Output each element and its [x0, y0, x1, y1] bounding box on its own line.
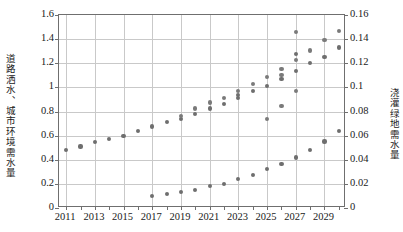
y-axis-left-tick — [55, 112, 59, 113]
y-axis-right-tick-label: 0 — [350, 202, 390, 213]
data-point — [150, 194, 154, 198]
data-point — [337, 29, 341, 33]
data-point — [294, 30, 298, 34]
x-axis-tick — [296, 206, 297, 210]
x-axis-tick — [310, 206, 311, 210]
x-axis-tick — [81, 206, 82, 210]
data-point — [251, 82, 255, 86]
x-axis-tick — [181, 206, 182, 210]
data-point — [337, 45, 341, 49]
y-axis-left-tick — [55, 184, 59, 185]
data-point — [265, 117, 269, 121]
data-point — [322, 139, 326, 143]
y-axis-right-tick-label: 0.1 — [350, 81, 390, 92]
data-point — [179, 114, 183, 118]
data-point — [308, 148, 312, 152]
data-point — [222, 182, 226, 186]
gridline-vertical — [152, 15, 153, 206]
x-axis-tick — [138, 206, 139, 210]
x-axis-tick — [95, 206, 96, 210]
y-axis-right-tick-label: 0.02 — [350, 178, 390, 189]
data-point — [179, 190, 183, 194]
x-axis-tick — [167, 206, 168, 210]
y-axis-right-tick — [344, 87, 348, 88]
x-axis-tick — [124, 206, 125, 210]
x-axis-tick — [267, 206, 268, 210]
gridline-horizontal — [59, 39, 344, 40]
data-point — [294, 89, 298, 93]
data-point — [251, 173, 255, 177]
y-axis-left-tick — [55, 15, 59, 16]
gridline-horizontal — [59, 87, 344, 88]
data-point — [279, 67, 283, 71]
data-point — [265, 167, 269, 171]
data-point — [308, 61, 312, 65]
data-point — [150, 124, 154, 128]
data-point — [193, 188, 197, 192]
y-axis-right-tick — [344, 160, 348, 161]
data-point — [337, 129, 341, 133]
data-point — [208, 100, 212, 104]
x-axis-tick — [66, 206, 67, 210]
y-axis-left-tick — [55, 63, 59, 64]
x-axis-tick — [109, 206, 110, 210]
gridline-vertical — [296, 15, 297, 206]
y-axis-left-tick — [55, 87, 59, 88]
y-axis-right-tick — [344, 208, 348, 209]
data-point — [279, 162, 283, 166]
x-axis-tick — [339, 206, 340, 210]
gridline-horizontal — [59, 112, 344, 113]
x-axis-tick — [152, 206, 153, 210]
data-point — [265, 75, 269, 79]
y-axis-right-tick — [344, 39, 348, 40]
y-axis-right-tick — [344, 15, 348, 16]
gridline-horizontal — [59, 136, 344, 137]
y-axis-left-tick-label: 1.4 — [14, 33, 54, 44]
y-axis-left-tick-label: 0.8 — [14, 106, 54, 117]
y-axis-left-tick-label: 0.4 — [14, 154, 54, 165]
data-point — [208, 106, 212, 110]
data-point — [294, 58, 298, 62]
gridline-vertical — [124, 15, 125, 206]
data-point — [208, 184, 212, 188]
data-point — [64, 148, 68, 152]
data-point — [294, 52, 298, 56]
chart-container: 道路洒水、城市环境需水量 浇灌绿地需水量 000.20.020.40.040.6… — [0, 0, 403, 232]
data-point — [251, 89, 255, 93]
gridline-vertical — [66, 15, 67, 206]
data-point — [121, 134, 125, 138]
y-axis-right-tick — [344, 63, 348, 64]
data-point — [165, 120, 169, 124]
data-point — [107, 137, 111, 141]
data-point — [78, 144, 82, 148]
y-axis-left-tick — [55, 160, 59, 161]
data-point — [308, 48, 312, 52]
gridline-horizontal — [59, 184, 344, 185]
plot-area — [58, 14, 345, 207]
x-axis-tick — [253, 206, 254, 210]
data-point — [236, 93, 240, 97]
data-point — [222, 102, 226, 106]
x-axis-tick-label: 2029 — [305, 212, 341, 223]
data-point — [322, 38, 326, 42]
y-axis-left-tick-label: 1.2 — [14, 57, 54, 68]
gridline-vertical — [95, 15, 96, 206]
x-axis-tick — [238, 206, 239, 210]
y-axis-left-tick — [55, 39, 59, 40]
gridline-vertical — [181, 15, 182, 206]
y-axis-left-tick-label: 0.2 — [14, 178, 54, 189]
x-axis-tick — [281, 206, 282, 210]
y-axis-left-tick-label: 1.6 — [14, 9, 54, 20]
data-point — [222, 96, 226, 100]
y-axis-left-tick-label: 0 — [14, 202, 54, 213]
gridline-horizontal — [59, 160, 344, 161]
data-point — [193, 106, 197, 110]
data-point — [279, 104, 283, 108]
data-point — [294, 69, 298, 73]
data-point — [93, 140, 97, 144]
x-axis-tick — [224, 206, 225, 210]
x-axis-tick — [210, 206, 211, 210]
x-axis-tick — [324, 206, 325, 210]
y-axis-right-tick-label: 0.04 — [350, 154, 390, 165]
y-axis-left-tick — [55, 136, 59, 137]
